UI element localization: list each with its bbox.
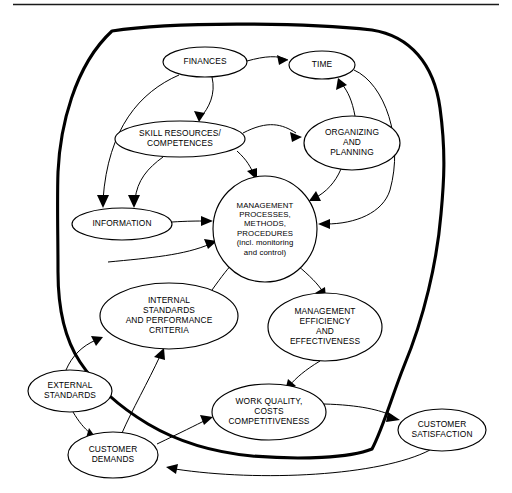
edge-skill-resources-management-processes: [237, 151, 257, 180]
node-external-standards-label: EXTERNALSTANDARDS: [44, 380, 96, 400]
node-management-processes-label: MANAGEMENTPROCESSES,METHODS,PROCEDURES(i…: [237, 201, 294, 257]
label-line: (incl. monitoring: [237, 238, 294, 247]
label-line: PROCESSES,: [239, 210, 291, 219]
label-line: COMPETITIVENESS: [228, 416, 309, 426]
label-line: PLANNING: [330, 147, 374, 157]
node-management-processes[interactable]: MANAGEMENTPROCESSES,METHODS,PROCEDURES(i…: [213, 176, 317, 282]
label-line: INTERNAL: [148, 295, 190, 305]
edge-management-processes-internal-standards: [108, 239, 217, 262]
label-line: and control): [244, 248, 287, 257]
node-external-standards[interactable]: EXTERNALSTANDARDS: [28, 370, 112, 412]
label-line: INFORMATION: [92, 218, 151, 228]
edge-finances-time: [247, 55, 288, 65]
node-time[interactable]: TIME: [289, 51, 355, 79]
label-line: STANDARDS: [44, 390, 96, 400]
node-finances-label: FINANCES: [183, 56, 226, 66]
label-line: EXTERNAL: [47, 380, 92, 390]
node-work-quality-costs-competitiveness[interactable]: WORK QUALITY,COSTSCOMPETITIVENESS: [212, 384, 326, 440]
label-line: ORGANIZING: [325, 127, 379, 137]
label-line: DEMANDS: [92, 454, 135, 464]
label-line: AND: [316, 326, 334, 336]
arrowhead: [277, 55, 288, 65]
node-time-label: TIME: [312, 59, 333, 69]
node-layer: FINANCESTIMESKILL RESOURCES/COMPETENCESO…: [28, 47, 486, 478]
node-customer-demands-label: CUSTOMERDEMANDS: [89, 444, 138, 464]
node-skill-resources-competences[interactable]: SKILL RESOURCES/COMPETENCES: [115, 121, 245, 157]
arrowhead: [194, 111, 205, 122]
label-line: COSTS: [254, 406, 284, 416]
label-line: METHODS,: [244, 219, 286, 228]
label-line: WORK QUALITY,: [236, 396, 303, 406]
label-line: PROCEDURES: [237, 229, 293, 238]
node-skill-resources-competences-label: SKILL RESOURCES/COMPETENCES: [139, 128, 221, 148]
node-internal-standards[interactable]: INTERNALSTANDARDSAND PERFORMANCECRITERIA: [100, 283, 238, 349]
arrowhead: [386, 412, 400, 422]
label-line: STANDARDS: [143, 305, 195, 315]
label-line: SKILL RESOURCES/: [139, 128, 221, 138]
edge-organizing-planning-time: [336, 78, 355, 116]
edge-information-management-processes: [172, 216, 213, 226]
label-line: SATISFACTION: [411, 429, 472, 439]
label-line: TIME: [312, 59, 333, 69]
node-customer-satisfaction[interactable]: CUSTOMERSATISFACTION: [398, 409, 486, 451]
node-information-label: INFORMATION: [92, 218, 151, 228]
arrowhead: [166, 464, 178, 474]
arrowhead: [128, 195, 140, 208]
label-line: FINANCES: [183, 56, 226, 66]
label-line: AND PERFORMANCE: [126, 315, 213, 325]
diagram-svg: FINANCESTIMESKILL RESOURCES/COMPETENCESO…: [0, 0, 512, 493]
node-management-efficiency[interactable]: MANAGEMENTEFFICIENCYANDEFFECTIVENESS: [268, 293, 382, 361]
arrowhead: [290, 132, 302, 142]
edge-finances-skill-resources: [194, 77, 213, 122]
edge-organizing-planning-management-processes: [309, 169, 341, 201]
node-finances[interactable]: FINANCES: [163, 47, 247, 77]
edge-skill-resources-information: [128, 157, 163, 208]
edge-external-standards-internal-standards: [66, 336, 103, 370]
edge-customer-demands-work-quality: [157, 415, 213, 444]
edge-customer-satisfaction-customer-demands: [166, 450, 430, 476]
label-line: CUSTOMER: [418, 419, 467, 429]
node-information[interactable]: INFORMATION: [72, 208, 172, 240]
edge-skill-resources-organizing-planning: [243, 125, 302, 142]
node-organizing-and-planning[interactable]: ORGANIZINGANDPLANNING: [304, 116, 400, 170]
arrowhead: [318, 219, 330, 229]
arrowhead: [154, 348, 165, 360]
label-line: CUSTOMER: [89, 444, 138, 454]
label-line: MANAGEMENT: [294, 306, 355, 316]
label-line: MANAGEMENT: [237, 201, 294, 210]
arrowhead: [97, 195, 109, 208]
label-line: EFFECTIVENESS: [290, 336, 360, 346]
arrowhead: [200, 415, 213, 425]
label-line: CRITERIA: [149, 325, 189, 335]
node-customer-satisfaction-label: CUSTOMERSATISFACTION: [411, 419, 472, 439]
diagram-canvas: FINANCESTIMESKILL RESOURCES/COMPETENCESO…: [0, 0, 512, 493]
arrowhead: [201, 216, 213, 226]
label-line: AND: [343, 137, 361, 147]
node-customer-demands[interactable]: CUSTOMERDEMANDS: [68, 432, 158, 478]
label-line: COMPETENCES: [147, 138, 213, 148]
label-line: EFFICIENCY: [300, 316, 351, 326]
